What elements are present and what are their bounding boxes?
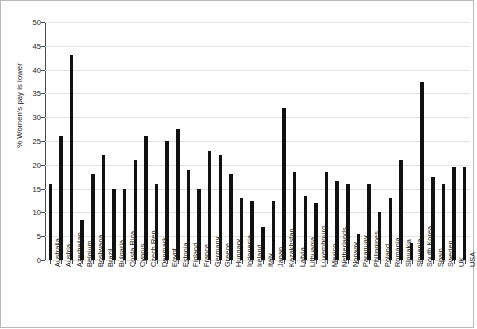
y-tick-label: 15 bbox=[7, 184, 41, 193]
x-tick-mark bbox=[242, 260, 243, 264]
y-tick-label: 30 bbox=[7, 113, 41, 122]
x-tick-mark bbox=[422, 260, 423, 264]
x-tick-mark bbox=[114, 260, 115, 264]
gridline bbox=[45, 165, 470, 166]
x-tick-mark bbox=[358, 260, 359, 264]
x-tick-mark bbox=[273, 260, 274, 264]
x-tick-mark bbox=[93, 260, 94, 264]
x-tick-mark bbox=[50, 260, 51, 264]
x-tick-mark bbox=[199, 260, 200, 264]
x-tick-mark bbox=[252, 260, 253, 264]
gridline bbox=[45, 141, 470, 142]
x-tick-mark bbox=[433, 260, 434, 264]
x-tick-mark bbox=[412, 260, 413, 264]
bar bbox=[463, 167, 466, 260]
x-tick-mark bbox=[231, 260, 232, 264]
x-tick-mark bbox=[390, 260, 391, 264]
x-tick-mark bbox=[327, 260, 328, 264]
bar bbox=[282, 108, 285, 260]
gridline bbox=[45, 70, 470, 71]
x-tick-mark bbox=[135, 260, 136, 264]
y-tick-label: 35 bbox=[7, 89, 41, 98]
y-tick-label: 5 bbox=[7, 232, 41, 241]
gridline bbox=[45, 22, 470, 23]
x-tick-mark bbox=[401, 260, 402, 264]
y-tick-label: 25 bbox=[7, 137, 41, 146]
chart-frame: % Women's pay is lower 05101520253035404… bbox=[0, 0, 474, 328]
x-tick-mark bbox=[443, 260, 444, 264]
x-tick-mark bbox=[178, 260, 179, 264]
x-tick-mark bbox=[369, 260, 370, 264]
x-tick-mark bbox=[348, 260, 349, 264]
bar bbox=[144, 136, 147, 260]
y-axis-ticks: 05101520253035404550 bbox=[1, 1, 41, 281]
x-tick-mark bbox=[263, 260, 264, 264]
x-tick-mark bbox=[337, 260, 338, 264]
x-tick-mark bbox=[465, 260, 466, 264]
gridline bbox=[45, 46, 470, 47]
x-tick-mark bbox=[167, 260, 168, 264]
y-tick-label: 0 bbox=[7, 256, 41, 265]
x-tick-mark bbox=[305, 260, 306, 264]
x-tick-label: Latvia bbox=[298, 247, 307, 267]
bar bbox=[420, 82, 423, 261]
x-tick-mark bbox=[188, 260, 189, 264]
x-tick-label: Spain bbox=[436, 248, 445, 267]
x-tick-mark bbox=[284, 260, 285, 264]
gridline bbox=[45, 189, 470, 190]
y-tick-label: 10 bbox=[7, 208, 41, 217]
x-tick-mark bbox=[72, 260, 73, 264]
x-tick-mark bbox=[316, 260, 317, 264]
x-tick-mark bbox=[146, 260, 147, 264]
x-tick-mark bbox=[295, 260, 296, 264]
bar bbox=[49, 184, 52, 260]
gridline bbox=[45, 93, 470, 94]
x-tick-label: USA bbox=[468, 252, 477, 267]
y-tick-label: 45 bbox=[7, 41, 41, 50]
y-tick-label: 40 bbox=[7, 65, 41, 74]
x-tick-mark bbox=[210, 260, 211, 264]
x-tick-mark bbox=[380, 260, 381, 264]
x-tick-mark bbox=[157, 260, 158, 264]
x-tick-mark bbox=[61, 260, 62, 264]
bar bbox=[176, 129, 179, 260]
bar bbox=[70, 55, 73, 260]
x-tick-mark bbox=[454, 260, 455, 264]
gridline bbox=[45, 212, 470, 213]
x-tick-label: Brazil bbox=[106, 248, 115, 267]
y-tick-label: 20 bbox=[7, 160, 41, 169]
x-tick-mark bbox=[125, 260, 126, 264]
gridline bbox=[45, 117, 470, 118]
gridline bbox=[45, 236, 470, 237]
plot-area bbox=[45, 22, 470, 260]
y-tick-label: 50 bbox=[7, 18, 41, 27]
bar bbox=[272, 201, 275, 261]
x-tick-mark bbox=[220, 260, 221, 264]
x-tick-mark bbox=[82, 260, 83, 264]
x-tick-label: Egypt bbox=[170, 248, 179, 267]
x-tick-mark bbox=[103, 260, 104, 264]
